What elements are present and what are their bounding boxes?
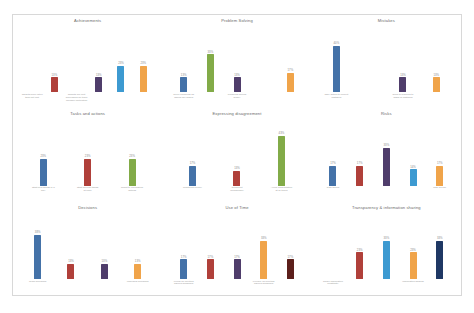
bar-value-label: 43% <box>279 132 285 135</box>
chart-title: Transparency & information sharing <box>352 205 421 210</box>
bar <box>67 264 74 279</box>
bar <box>34 235 41 279</box>
bar-category-label: Start new things in a way <box>31 187 55 193</box>
bar-slot: 23%Start new things in a way <box>21 117 65 185</box>
bar <box>180 77 187 92</box>
bar-slot: 23%Start several things at once <box>65 117 109 185</box>
chart-panel: Mistakes40%Take action to correct mistak… <box>312 15 461 108</box>
bar-category-label: Solve problems as issues are raised <box>172 94 196 100</box>
chart-title: Use of Time <box>225 205 248 210</box>
bar <box>84 159 91 186</box>
bar-value-label: 17% <box>288 69 294 72</box>
bar-slot: 33% <box>197 24 224 92</box>
plot-area: Share information constantly23%33%23%Inf… <box>314 211 459 295</box>
bar-slot: 13%Individual decisions <box>121 211 154 279</box>
bar-slot: 43%Avoid confrontation at all times <box>259 117 303 185</box>
bar <box>436 241 443 279</box>
bar-category-label: React to colleagues' actions <box>120 187 144 193</box>
bar-value-label: 33% <box>261 237 267 240</box>
bar <box>399 77 406 92</box>
bar-slot: 13% <box>88 24 110 92</box>
bar <box>287 259 294 279</box>
bar-value-label: 33% <box>384 144 390 147</box>
bar <box>410 169 417 185</box>
bar-category-label: Focus on meeting agreed deadlines <box>172 281 196 287</box>
bar-slot: 23%React to colleagues' actions <box>110 117 154 185</box>
chart-panel: Decisions38%Team decisions13%13%13%Indiv… <box>13 202 162 295</box>
bar-slot: 13% <box>54 211 87 279</box>
bar-slot: 33%Flexible on meeting agreed deadlines <box>250 211 277 279</box>
bar-slot: 13% <box>43 24 65 92</box>
bar-category-label: Flexible on meeting agreed deadlines <box>252 281 276 287</box>
bar-category-label: Avoid confrontation at all times <box>269 187 293 193</box>
bar-slot <box>353 24 386 92</box>
bar-value-label: 33% <box>384 237 390 240</box>
bar <box>101 264 108 279</box>
bar <box>329 166 336 186</box>
bar-slot: 33% <box>373 211 400 279</box>
chart-panel: Expressing disagreement17%Comment openly… <box>162 108 311 201</box>
chart-title: Achievements <box>74 18 101 23</box>
bar <box>40 159 47 186</box>
bar <box>233 171 240 186</box>
bar <box>234 77 241 92</box>
bar-slot <box>250 24 277 92</box>
bar-category-label: Risk taking <box>321 187 345 190</box>
bar-category-label: Start several things at once <box>76 187 100 193</box>
bar <box>180 259 187 279</box>
bar <box>356 166 363 186</box>
plot-area: 17%Risk taking17%33%14%17%Risk averse <box>314 117 459 201</box>
bar-slot: 17%Focus on meeting agreed deadlines <box>170 211 197 279</box>
plot-area: 17%Focus on meeting agreed deadlines17%1… <box>164 211 309 295</box>
bar <box>383 148 390 186</box>
plot-area: 17%Comment openly13%Comment occasionally… <box>164 117 309 201</box>
bar <box>189 166 196 186</box>
chart-title: Tasks and actions <box>70 111 105 116</box>
bar <box>129 159 136 186</box>
bar-category-label: Share information constantly <box>321 281 345 287</box>
bar-slot: 38%Team decisions <box>21 211 54 279</box>
bar-slot: 33% <box>373 117 400 185</box>
bar-slot: Share information constantly <box>320 211 347 279</box>
bar <box>51 77 58 92</box>
bar-category-label: Problems solved slowly <box>225 94 249 100</box>
bar-value-label: 13% <box>234 167 240 170</box>
plot-area: 23%Start new things in a way23%Start sev… <box>15 117 160 201</box>
bar-slot: 23% <box>132 24 154 92</box>
bar <box>356 252 363 279</box>
chart-panel: Tasks and actions23%Start new things in … <box>13 108 162 201</box>
bar-slot: 40%Take action to correct mistakes <box>320 24 353 92</box>
bar-slot: 17%Comment openly <box>170 117 214 185</box>
chart-panel: Problem Solving13%Solve problems as issu… <box>162 15 311 108</box>
bar <box>95 77 102 92</box>
bar <box>207 54 214 92</box>
bar-category-label: Targets are met depending on team member… <box>65 94 89 103</box>
chart-title: Mistakes <box>378 18 395 23</box>
bar-category-label: Slow to respond to signs of mistakes <box>391 94 415 100</box>
bar <box>117 66 124 93</box>
bar <box>410 252 417 279</box>
bar-slot: 23% <box>110 24 132 92</box>
bar-slot: 13%Problems solved slowly <box>224 24 251 92</box>
bar-value-label: 33% <box>437 237 443 240</box>
bar <box>260 241 267 279</box>
bar <box>207 259 214 279</box>
plot-area: 38%Team decisions13%13%13%Individual dec… <box>15 211 160 295</box>
bar-category-label: Comment openly <box>181 187 205 190</box>
bar <box>278 136 285 186</box>
bar-slot: Targets are met depending on team member… <box>65 24 87 92</box>
bar-slot: 17% <box>197 211 224 279</box>
bar-slot: 13% <box>420 24 453 92</box>
chart-title: Risks <box>381 111 392 116</box>
bar-slot: 17% <box>277 24 304 92</box>
bar-slot: 17% <box>224 211 251 279</box>
bar <box>333 46 340 92</box>
bar <box>383 241 390 279</box>
bar-category-label: Information sharing <box>401 281 425 284</box>
bar-slot: 14% <box>400 117 427 185</box>
plot-area: 40%Take action to correct mistakes13%Slo… <box>314 24 459 108</box>
bar <box>234 259 241 279</box>
bar-category-label: Take action to correct mistakes <box>324 94 348 100</box>
bar <box>436 166 443 186</box>
bar-category-label: Comment occasionally <box>225 187 249 193</box>
